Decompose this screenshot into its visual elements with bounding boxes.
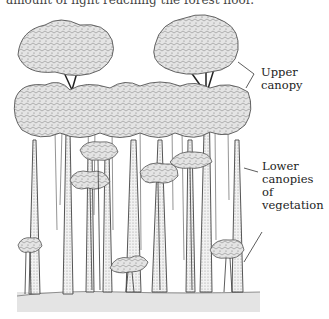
- forest-floor: [17, 292, 260, 312]
- label-line: vegetation: [262, 199, 324, 212]
- lower-canopies-label: Lower canopies of vegetation: [262, 160, 324, 212]
- upper-canopy-label: Upper canopy: [261, 66, 303, 92]
- main-canopy-band: [14, 82, 251, 138]
- label-line: canopy: [261, 79, 303, 92]
- upper-canopy-crowns: [18, 15, 238, 76]
